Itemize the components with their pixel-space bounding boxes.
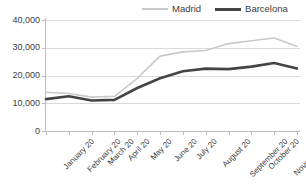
x-axis-tick-label: May 20 <box>149 137 174 162</box>
x-axis-tick-label: August 20 <box>220 137 252 169</box>
x-axis-tick-label: June 20 <box>172 137 198 163</box>
line-chart: Madrid Barcelona 010,00020,00030,00040,0… <box>0 0 306 190</box>
x-axis-tick-labels: January 20February 20March 20April 20May… <box>0 133 306 190</box>
series-line-madrid <box>46 38 297 97</box>
series-lines <box>46 38 297 101</box>
series-line-barcelona <box>46 63 297 101</box>
gridlines <box>46 21 300 104</box>
x-axis-tick-label: July 20 <box>194 137 218 161</box>
